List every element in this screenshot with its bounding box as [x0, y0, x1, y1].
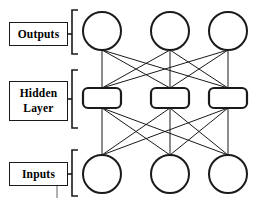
layer-label-text: Hidden: [20, 86, 58, 101]
layer-label-inputs: Inputs: [9, 162, 68, 186]
layer-inputs: [57, 150, 247, 198]
layer-label-outputs: Outputs: [9, 22, 68, 46]
bracket-outputs: [72, 10, 78, 54]
node-hidden-3: [209, 88, 247, 108]
layer-outputs: [68, 10, 247, 54]
bracket-hidden: [72, 70, 78, 128]
node-outputs-2: [151, 12, 189, 50]
node-outputs-1: [83, 12, 121, 50]
neural-network-diagram: Outputs HiddenLayer Inputs: [0, 0, 262, 207]
bracket-inputs: [72, 150, 78, 196]
node-hidden-1: [83, 88, 121, 108]
layer-label-text: Outputs: [18, 27, 60, 42]
node-inputs-1: [83, 155, 121, 193]
layer-label-text: Inputs: [22, 167, 55, 182]
layer-hidden: [68, 70, 247, 128]
node-inputs-3: [209, 155, 247, 193]
node-inputs-2: [151, 155, 189, 193]
layer-label-hidden: HiddenLayer: [9, 81, 68, 121]
node-outputs-3: [209, 12, 247, 50]
node-hidden-2: [151, 88, 189, 108]
layer-label-text: Layer: [23, 101, 53, 116]
